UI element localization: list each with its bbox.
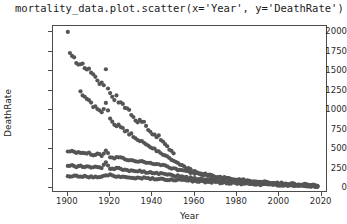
x-tick-mark bbox=[278, 192, 279, 196]
x-tick-label: 1940 bbox=[131, 196, 171, 206]
x-tick-mark bbox=[194, 192, 195, 196]
y-tick-mark bbox=[48, 70, 52, 71]
x-tick-mark bbox=[151, 192, 152, 196]
x-tick-label: 1920 bbox=[89, 196, 129, 206]
x-tick-label: 1980 bbox=[216, 196, 256, 206]
scatter-plot-screenshot: mortality_data.plot.scatter(x='Year', y=… bbox=[0, 0, 347, 224]
x-tick-mark bbox=[236, 192, 237, 196]
y-tick-label: 500 bbox=[301, 143, 347, 153]
y-tick-mark bbox=[48, 148, 52, 149]
y-tick-mark bbox=[48, 187, 52, 188]
x-tick-label: 2000 bbox=[258, 196, 298, 206]
x-tick-label: 1900 bbox=[47, 196, 87, 206]
x-tick-mark bbox=[321, 192, 322, 196]
x-tick-mark bbox=[109, 192, 110, 196]
y-axis-label: DeathRate bbox=[3, 77, 13, 149]
y-tick-label: 1750 bbox=[301, 46, 347, 56]
y-tick-label: 1500 bbox=[301, 65, 347, 75]
y-tick-label: 750 bbox=[301, 124, 347, 134]
x-axis-label: Year bbox=[52, 211, 327, 222]
x-tick-label: 2020 bbox=[301, 196, 341, 206]
y-tick-mark bbox=[48, 129, 52, 130]
y-axis: 0250500750100012501500175020001900192019… bbox=[0, 0, 347, 224]
y-tick-label: 250 bbox=[301, 163, 347, 173]
y-tick-label: 0 bbox=[301, 182, 347, 192]
y-tick-mark bbox=[48, 168, 52, 169]
matplotlib-figure: 0250500750100012501500175020001900192019… bbox=[0, 0, 347, 224]
y-tick-label: 2000 bbox=[301, 26, 347, 36]
y-tick-mark bbox=[48, 90, 52, 91]
y-tick-label: 1000 bbox=[301, 104, 347, 114]
y-tick-mark bbox=[48, 51, 52, 52]
x-tick-label: 1960 bbox=[174, 196, 214, 206]
y-tick-mark bbox=[48, 31, 52, 32]
y-tick-mark bbox=[48, 109, 52, 110]
x-tick-mark bbox=[67, 192, 68, 196]
y-tick-label: 1250 bbox=[301, 85, 347, 95]
